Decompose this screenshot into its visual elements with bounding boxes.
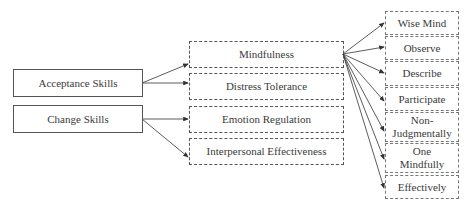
node-interpersonal-effectiveness: Interpersonal Effectiveness — [189, 138, 344, 165]
node-one-mindfully: One Mindfully — [385, 143, 459, 173]
arrow-participate — [343, 54, 384, 101]
node-label: Observe — [404, 42, 441, 55]
node-distress-tolerance: Distress Tolerance — [189, 73, 344, 100]
node-label: Distress Tolerance — [226, 80, 307, 93]
node-label: Describe — [402, 67, 441, 80]
node-effectively: Effectively — [385, 175, 459, 199]
node-label: Acceptance Skills — [38, 77, 117, 90]
node-label: Participate — [398, 93, 445, 106]
node-acceptance-skills: Acceptance Skills — [13, 69, 143, 97]
node-observe: Observe — [385, 36, 459, 60]
arrow-observe — [343, 47, 384, 54]
node-label: Effectively — [398, 181, 447, 194]
node-label: Non- Judgmentally — [392, 114, 451, 140]
arrow-non-judgmentally — [343, 54, 384, 131]
node-participate: Participate — [385, 87, 459, 111]
node-label: Mindfulness — [239, 48, 294, 61]
node-label: Emotion Regulation — [222, 113, 311, 126]
node-non-judgmentally: Non- Judgmentally — [385, 112, 459, 142]
arrow-effectively — [343, 54, 384, 188]
node-mindfulness: Mindfulness — [189, 41, 344, 68]
arrow-acceptance-mindfulness — [142, 64, 188, 83]
arrow-wise-mind — [343, 23, 384, 54]
node-describe: Describe — [385, 61, 459, 86]
node-label: Wise Mind — [398, 17, 447, 30]
node-label: Interpersonal Effectiveness — [207, 145, 327, 158]
node-emotion-regulation: Emotion Regulation — [189, 106, 344, 133]
node-wise-mind: Wise Mind — [385, 11, 459, 35]
node-label: One Mindfully — [400, 145, 445, 171]
node-change-skills: Change Skills — [13, 105, 143, 133]
arrow-change-interpersonal — [142, 119, 188, 157]
node-label: Change Skills — [47, 113, 108, 126]
